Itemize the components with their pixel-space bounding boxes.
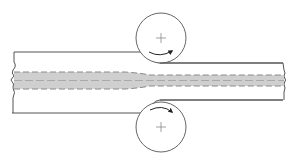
- bottom-roll: [136, 102, 186, 152]
- rolling-diagram: [0, 0, 296, 161]
- top-roll: [136, 13, 186, 63]
- deformation-band: [14, 72, 284, 89]
